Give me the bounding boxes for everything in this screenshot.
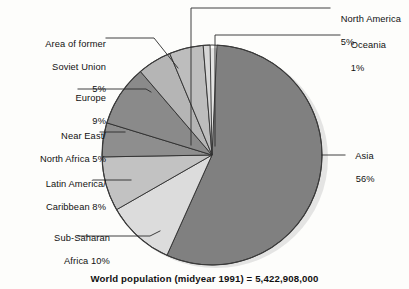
- slice-label-line-1: Asia: [355, 151, 374, 161]
- slice-label-line-1: Europe: [75, 93, 106, 103]
- slice-label-line-1: Oceania: [351, 40, 386, 50]
- slice-label-line-1: Near East/: [61, 131, 106, 141]
- slice-label-line-2: Africa 10%: [64, 256, 110, 266]
- slice-label-line-1: Sub-Saharan: [54, 233, 110, 243]
- slice-label-latin-america-caribbean: Latin America/ Caribbean 8%: [0, 168, 106, 224]
- slice-label-oceania: Oceania 1%: [340, 29, 408, 85]
- chart-caption: World population (midyear 1991) = 5,422,…: [0, 273, 409, 284]
- slice-label-value: 56%: [356, 174, 375, 184]
- slice-label-value: 1%: [351, 63, 365, 73]
- slice-label-sub-saharan-africa: Sub-Saharan Africa 10%: [2, 222, 110, 278]
- slice-label-asia: Asia 56%: [345, 140, 407, 196]
- slice-label-line-2: Soviet Union: [52, 62, 106, 72]
- slice-label-line-2: Caribbean 8%: [46, 202, 106, 212]
- pie-chart-figure: Area of former Soviet Union 5% Europe 9%…: [0, 0, 409, 289]
- slice-label-line-2: North Africa 5%: [40, 154, 106, 164]
- slice-label-line-1: Area of former: [45, 39, 106, 49]
- slice-label-line-1: North America: [341, 14, 401, 24]
- slice-label-line-1: Latin America/: [46, 179, 106, 189]
